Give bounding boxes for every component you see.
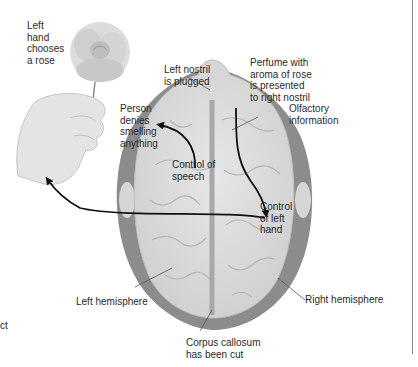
page-edge-rule [412, 0, 413, 354]
label-right-hemisphere: Right hemisphere [305, 294, 383, 306]
label-left-hemisphere: Left hemisphere [76, 296, 148, 308]
right-ear [295, 182, 311, 218]
label-corpus-callosum: Corpus callosum has been cut [186, 337, 260, 360]
hand-illustration [17, 93, 105, 184]
label-perfume: Perfume with aroma of rose is presented … [250, 57, 312, 103]
label-left-nostril: Left nostril is plugged [164, 64, 210, 87]
label-olfactory-information: Olfactory information [289, 103, 338, 126]
label-left-hand: Left hand chooses a rose [27, 20, 64, 66]
label-control-of-left-hand: Control of left hand [260, 201, 292, 236]
label-cut-fragment: ct [0, 320, 8, 332]
label-person-denies: Person denies smelling anything [120, 103, 158, 149]
label-control-of-speech: Control of speech [172, 159, 215, 182]
